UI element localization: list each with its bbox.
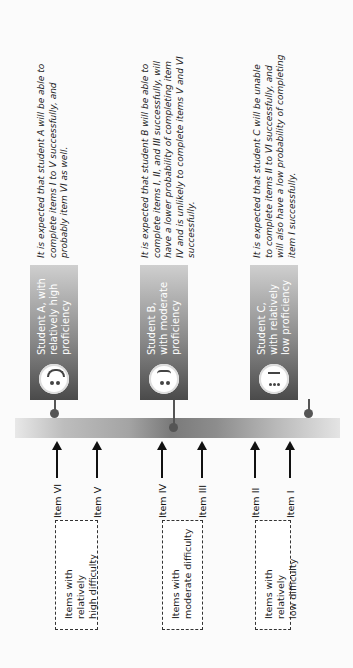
item-label: Item VI bbox=[52, 478, 63, 518]
arrow-shaft bbox=[96, 450, 98, 478]
student-label: Student A, with bbox=[36, 278, 48, 355]
student-c-box: Student C, with relatively low proficien… bbox=[250, 265, 298, 400]
student-b-box: Student B, with moderate proficiency bbox=[140, 265, 188, 400]
worried-face-icon bbox=[259, 364, 289, 394]
item-iii: Item III bbox=[195, 441, 209, 518]
difficulty-label: Items with relatively bbox=[263, 527, 287, 619]
item-label: Item V bbox=[92, 478, 103, 518]
student-a-box: Student A, with relatively high proficie… bbox=[30, 265, 78, 400]
arrow-icon bbox=[52, 441, 62, 450]
difficulty-group-low: Items with relatively low difficulty bbox=[255, 520, 291, 630]
item-label: Item II bbox=[250, 478, 261, 518]
smiling-face-icon bbox=[39, 364, 69, 394]
arrow-shaft bbox=[289, 450, 291, 478]
arrow-shaft bbox=[201, 450, 203, 478]
difficulty-label: Items with bbox=[170, 527, 182, 619]
arrow-icon bbox=[285, 441, 295, 450]
arrow-icon bbox=[157, 441, 167, 450]
student-a-connector bbox=[54, 399, 56, 413]
item-vi: Item VI bbox=[50, 441, 64, 518]
student-label: low proficiency bbox=[280, 280, 292, 355]
student-a-description: It is expected that student A will be ab… bbox=[36, 53, 71, 258]
student-label: with moderate bbox=[158, 282, 170, 355]
difficulty-label: moderate difficulty bbox=[182, 527, 194, 619]
arrow-icon bbox=[197, 441, 207, 450]
student-c-connector bbox=[308, 399, 310, 413]
student-b-description: It is expected that student B will be ab… bbox=[140, 53, 198, 258]
arrow-shaft bbox=[56, 450, 58, 478]
item-difficulty-proficiency-diagram: Items with relatively high difficulty It… bbox=[0, 0, 353, 668]
arrow-shaft bbox=[254, 450, 256, 478]
item-label: Item III bbox=[197, 478, 208, 518]
item-label: Item I bbox=[285, 478, 296, 518]
student-label: proficiency bbox=[60, 278, 72, 355]
difficulty-group-high: Items with relatively high difficulty bbox=[55, 520, 98, 630]
item-ii: Item II bbox=[248, 441, 262, 518]
student-label: with relatively bbox=[268, 280, 280, 355]
student-label: Student B, bbox=[146, 282, 158, 355]
arrow-icon bbox=[92, 441, 102, 450]
item-v: Item V bbox=[90, 441, 104, 518]
difficulty-label: Items with relatively bbox=[63, 527, 87, 619]
item-label: Item IV bbox=[157, 478, 168, 518]
neutral-face-icon bbox=[149, 364, 179, 394]
arrow-shaft bbox=[161, 450, 163, 478]
difficulty-label: high difficulty bbox=[87, 527, 99, 619]
student-c-description: It is expected that student C will be un… bbox=[252, 53, 298, 258]
difficulty-label: low difficulty bbox=[287, 527, 299, 619]
student-label: Student C, bbox=[256, 280, 268, 355]
arrow-icon bbox=[250, 441, 260, 450]
item-i: Item I bbox=[283, 441, 297, 518]
student-label: relatively high bbox=[48, 278, 60, 355]
difficulty-group-moderate: Items with moderate difficulty bbox=[162, 520, 203, 630]
item-iv: Item IV bbox=[155, 441, 169, 518]
student-b-connector bbox=[173, 399, 175, 427]
student-label: proficiency bbox=[170, 282, 182, 355]
